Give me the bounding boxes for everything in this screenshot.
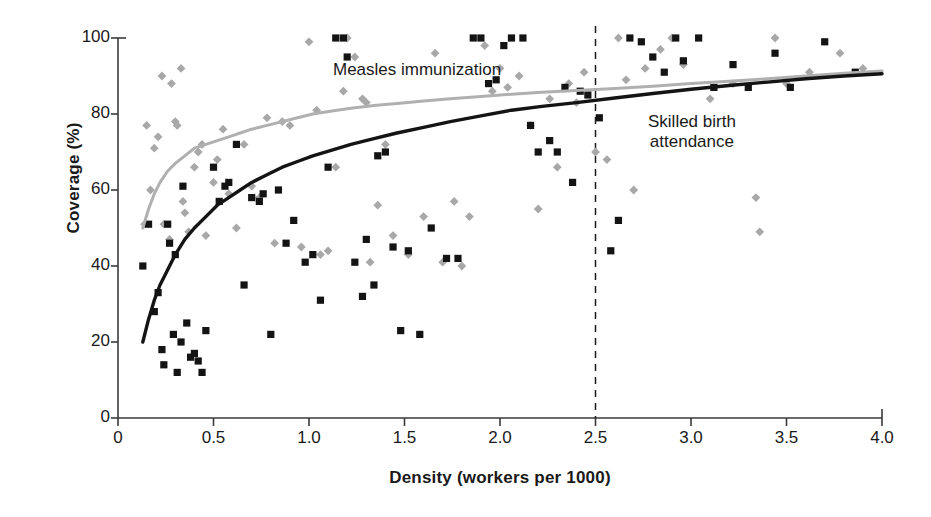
skilled-birth-series-annotation: Skilled birth attendance — [648, 112, 736, 152]
skilled-birth-annotation-line2: attendance — [648, 132, 736, 152]
x-tick-label: 1.5 — [375, 428, 435, 448]
x-tick-label: 1.0 — [279, 428, 339, 448]
measles-series-annotation: Measles immunization — [333, 60, 501, 80]
chart-figure: 020406080100 00.51.01.52.02.53.03.54.0 C… — [0, 0, 931, 517]
y-axis-title: Coverage (%) — [64, 78, 84, 278]
x-tick-label: 0.5 — [184, 428, 244, 448]
x-axis-title: Density (workers per 1000) — [118, 468, 882, 488]
x-tick-label: 3.5 — [757, 428, 817, 448]
x-tick-label: 2.5 — [566, 428, 626, 448]
x-tick-label: 2.0 — [470, 428, 530, 448]
skilled-birth-annotation-line1: Skilled birth — [648, 112, 736, 132]
x-tick-label: 4.0 — [852, 428, 912, 448]
x-tick-label: 3.0 — [661, 428, 721, 448]
x-tick-label: 0 — [88, 428, 148, 448]
